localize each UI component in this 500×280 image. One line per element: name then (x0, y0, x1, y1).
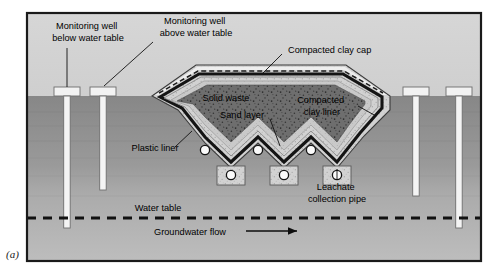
leachate-pipe (279, 170, 288, 179)
leachate-pipe (253, 145, 262, 154)
scene-clip-group: Monitoring well below water table Monito… (27, 13, 481, 261)
label-sand-layer: Sand layer (220, 110, 264, 120)
label-water-table: Water table (135, 203, 182, 213)
label-plastic-liner: Plastic liner (132, 143, 179, 153)
label-groundwater-flow: Groundwater flow (154, 227, 226, 237)
figure-landfill-cross-section: Monitoring well below water table Monito… (0, 0, 500, 280)
label-monitoring-well-above: Monitoring well above water table (160, 16, 233, 38)
leachate-pipe (306, 145, 315, 154)
label-compacted-clay-cap: Compacted clay cap (288, 45, 371, 55)
leachate-pipe (226, 170, 235, 179)
landfill-diagram-svg: Monitoring well below water table Monito… (0, 0, 500, 280)
label-compacted-clay-liner: Compacted clay liner (297, 95, 347, 117)
panel-letter: (a) (6, 248, 19, 261)
label-monitoring-well-below: Monitoring well below water table (52, 21, 124, 43)
label-solid-waste: Solid waste (203, 93, 250, 103)
leachate-pipe (200, 145, 209, 154)
